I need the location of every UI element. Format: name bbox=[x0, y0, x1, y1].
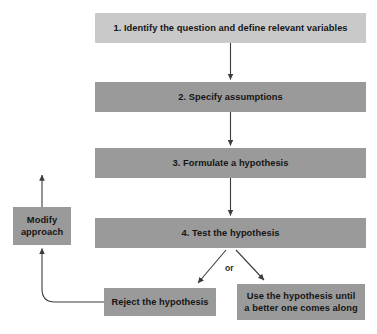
use-hypothesis-box[interactable]: Use the hypothesis until a better one co… bbox=[237, 284, 365, 320]
modify-approach-line-2: approach bbox=[21, 226, 63, 238]
test-hypothesis-box[interactable]: 4. Test the hypothesis bbox=[95, 218, 366, 248]
identify-question-label: 1. Identify the question and define rele… bbox=[107, 22, 353, 34]
connector-reject-to-modify bbox=[42, 249, 104, 303]
identify-question-box[interactable]: 1. Identify the question and define rele… bbox=[95, 13, 366, 43]
formulate-hypothesis-box[interactable]: 3. Formulate a hypothesis bbox=[95, 148, 366, 178]
use-hypothesis-line-2: a better one comes along bbox=[244, 302, 357, 314]
specify-assumptions-box[interactable]: 2. Specify assumptions bbox=[95, 82, 366, 112]
modify-approach-line-1: Modify bbox=[27, 214, 57, 226]
specify-assumptions-label: 2. Specify assumptions bbox=[172, 91, 288, 103]
flowchart-canvas: 1. Identify the question and define rele… bbox=[0, 0, 377, 334]
formulate-hypothesis-label: 3. Formulate a hypothesis bbox=[167, 157, 295, 169]
modify-approach-box[interactable]: Modify approach bbox=[13, 207, 71, 245]
branch-or-label: or bbox=[225, 263, 234, 273]
connector-step4-to-use bbox=[236, 250, 264, 280]
test-hypothesis-label: 4. Test the hypothesis bbox=[175, 227, 285, 239]
reject-hypothesis-box[interactable]: Reject the hypothesis bbox=[104, 288, 216, 316]
connector-step4-to-reject bbox=[198, 250, 226, 283]
use-hypothesis-line-1: Use the hypothesis until bbox=[247, 290, 356, 302]
reject-hypothesis-label: Reject the hypothesis bbox=[105, 296, 214, 308]
